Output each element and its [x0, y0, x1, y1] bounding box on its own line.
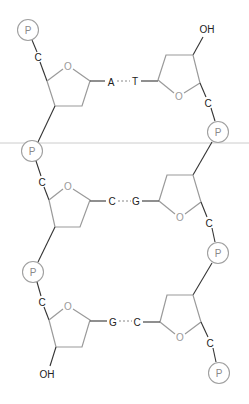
p-c-bond	[37, 282, 41, 296]
sugar-ring	[47, 69, 90, 106]
dna-diagram: P C O A P C O C P C O G OH OH T	[0, 0, 249, 404]
base-label-left-1: A	[108, 77, 115, 88]
carbon-label: C	[34, 52, 41, 63]
base-label-left-3: G	[109, 317, 117, 328]
carbon-label: C	[206, 338, 213, 349]
phosphate-label: P	[29, 146, 36, 157]
carbon-label: C	[38, 297, 45, 308]
carbon-label: C	[204, 98, 211, 109]
left-nucleotide-1	[32, 40, 105, 142]
ring-edge	[160, 322, 175, 334]
phosphate-label: P	[215, 248, 222, 259]
ring-oxygen-label: O	[64, 181, 72, 192]
ring-c-bond	[201, 202, 207, 217]
phosphate-label: P	[30, 267, 37, 278]
oh-bond	[50, 347, 56, 366]
sugar-ring	[160, 295, 201, 334]
phosphate-label: P	[25, 25, 32, 36]
ring-c-bond	[200, 83, 206, 97]
base-label-right-2: G	[132, 196, 140, 207]
carbon-label: C	[205, 218, 212, 229]
c-p-bond	[212, 228, 215, 242]
ring-edge	[47, 69, 63, 81]
oh-bond	[193, 37, 203, 55]
ring-oxygen-label: O	[175, 91, 183, 102]
phosphate-label: P	[216, 368, 223, 379]
backbone-bond	[193, 263, 212, 295]
right-nucleotide-2	[142, 142, 215, 242]
ring-oxygen-label: O	[176, 212, 184, 223]
ring-c-bond	[201, 322, 208, 337]
c-ring-bond	[40, 62, 47, 81]
base-label-right-3: C	[133, 317, 140, 328]
ring-oxygen-label: O	[176, 332, 184, 343]
left-nucleotide-3	[37, 282, 107, 366]
hydroxyl-label: OH	[200, 24, 215, 35]
phosphate-label: P	[215, 127, 222, 138]
p-c-bond	[32, 40, 37, 52]
backbone-bond	[193, 142, 212, 175]
sugar-ring	[159, 175, 201, 214]
carbon-label: C	[38, 177, 45, 188]
ring-oxygen-label: O	[64, 61, 72, 72]
sugar-ring	[158, 55, 200, 93]
ring-edge	[158, 80, 174, 93]
right-nucleotide-3	[143, 263, 216, 362]
ring-oxygen-label: O	[64, 301, 72, 312]
c-ring-bond	[44, 187, 49, 200]
c-p-bond	[211, 108, 215, 121]
hydroxyl-label: OH	[40, 369, 55, 380]
ring-edge	[49, 189, 63, 200]
base-label-left-2: C	[108, 196, 115, 207]
c-ring-bond	[44, 307, 49, 320]
base-label-right-1: T	[132, 76, 138, 87]
c-p-bond	[213, 348, 216, 362]
left-nucleotide-2	[36, 161, 106, 262]
p-c-bond	[36, 161, 41, 176]
backbone-bond	[38, 106, 55, 142]
ring-edge	[159, 201, 175, 214]
backbone-bond	[38, 227, 55, 262]
ring-edge	[49, 309, 63, 320]
